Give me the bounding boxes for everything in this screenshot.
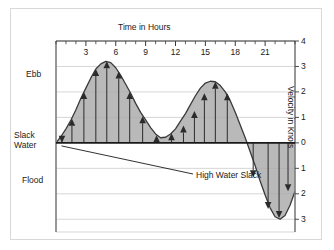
y-tick-label: 2	[301, 188, 313, 198]
y-tick-label: 2	[301, 86, 313, 96]
curve-fill-area	[56, 61, 295, 219]
y-tick-label: 1	[301, 112, 313, 122]
zone-label-slack-water: Slack Water	[14, 131, 36, 150]
high-water-slack-annotation: High Water Slack	[196, 170, 261, 180]
annotation-leader-line	[62, 146, 194, 174]
x-tick-label: 18	[228, 47, 242, 57]
tidal-current-chart	[0, 0, 334, 250]
velocity-axis-title: Velocity in Knots	[286, 86, 296, 148]
x-tick-label: 21	[258, 47, 272, 57]
x-tick-label: 3	[79, 47, 93, 57]
zone-label-slack-line2: Water	[14, 141, 36, 151]
x-tick-label: 12	[169, 47, 183, 57]
y-tick-label: 0	[301, 137, 313, 147]
zone-label-ebb: Ebb	[26, 70, 41, 80]
x-tick-label: 15	[198, 47, 212, 57]
x-tick-label: 6	[109, 47, 123, 57]
y-tick-label: 4	[301, 36, 313, 46]
time-axis-title: Time in Hours	[118, 22, 171, 32]
y-tick-label: 3	[301, 214, 313, 224]
y-tick-label: 1	[301, 163, 313, 173]
y-tick-label: 3	[301, 61, 313, 71]
x-tick-label: 9	[139, 47, 153, 57]
chart-figure: Time in Hours Velocity in Knots Ebb Slac…	[0, 0, 334, 250]
zone-label-flood: Flood	[22, 176, 43, 186]
